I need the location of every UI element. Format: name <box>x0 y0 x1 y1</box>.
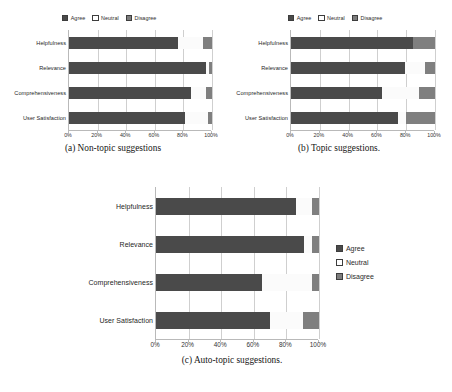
y-axis-label: User Satisfaction <box>245 115 291 121</box>
y-axis-label: Comprehensiveness <box>236 90 291 96</box>
legend-swatch-agree-icon <box>336 245 343 252</box>
bar-segment-neutral <box>382 87 419 99</box>
legend-swatch-agree-icon <box>288 15 294 21</box>
stacked-bar <box>156 198 319 215</box>
legend-swatch-neutral-icon <box>318 15 324 21</box>
legend-label-neutral: Neutral <box>101 15 119 21</box>
bar-segment-disagree <box>419 87 435 99</box>
stacked-bar <box>69 112 212 124</box>
legend-swatch-agree-icon <box>62 15 68 21</box>
bar-segment-neutral <box>304 236 312 253</box>
legend-swatch-disagree-icon <box>126 15 132 21</box>
bar-segment-agree <box>69 87 191 99</box>
legend-label-disagree: Disagree <box>134 15 156 21</box>
x-tick-label: 0% <box>150 341 159 348</box>
x-tick-label: 20% <box>313 132 324 138</box>
bar-segment-neutral <box>185 112 208 124</box>
y-axis-label: Helpfulness <box>116 203 156 210</box>
x-tick-label: 60% <box>148 132 159 138</box>
caption-a: (a) Non-topic suggestions <box>0 143 226 153</box>
stacked-bar <box>291 62 435 74</box>
legend-item-disagree: Disagree <box>352 15 383 21</box>
plot-area-b: HelpfulnessRelevanceComprehensivenessUse… <box>290 30 435 130</box>
stacked-bar <box>69 37 212 49</box>
x-tick-label: 20% <box>91 132 102 138</box>
bar-segment-agree <box>156 198 296 215</box>
bar-segment-neutral <box>398 112 407 124</box>
bar-segment-disagree <box>203 37 212 49</box>
bar-row: Comprehensiveness <box>291 80 435 105</box>
legend-c: Agree Neutral Disagree <box>336 245 374 280</box>
x-tick-label: 40% <box>342 132 353 138</box>
bar-segment-agree <box>291 112 398 124</box>
y-axis-label: Relevance <box>120 241 156 248</box>
bar-segment-neutral <box>262 274 313 291</box>
legend-label-neutral: Neutral <box>346 259 369 266</box>
figure-c-auto-topic: Agree Neutral Disagree HelpfulnessReleva… <box>82 167 382 392</box>
x-tick-label: 80% <box>177 132 188 138</box>
x-axis-b: 0%20%40%60%80%100% <box>290 130 434 131</box>
legend-b: Agree Neutral Disagree <box>288 15 382 21</box>
x-tick-label: 100% <box>310 341 326 348</box>
gridline <box>212 30 213 130</box>
x-tick-label: 20% <box>181 341 194 348</box>
caption-c: (c) Auto-topic suggestions. <box>82 355 382 365</box>
x-tick-label: 60% <box>371 132 382 138</box>
bar-row: Relevance <box>69 55 212 80</box>
bar-segment-disagree <box>209 62 212 74</box>
x-axis-a: 0%20%40%60%80%100% <box>68 130 211 131</box>
x-tick-label: 40% <box>214 341 227 348</box>
legend-label-agree: Agree <box>297 15 312 21</box>
y-axis-label: User Satisfaction <box>23 115 69 121</box>
bar-segment-agree <box>156 312 270 329</box>
stacked-bar <box>69 87 212 99</box>
legend-item-agree: Agree <box>336 245 374 252</box>
stacked-bar <box>156 312 319 329</box>
bar-row: Relevance <box>156 225 319 263</box>
x-tick-label: 60% <box>246 341 259 348</box>
bar-segment-disagree <box>312 274 319 291</box>
x-tick-label: 0% <box>286 132 294 138</box>
bar-segment-disagree <box>206 87 212 99</box>
bar-segment-neutral <box>296 198 312 215</box>
plot-area-c: HelpfulnessRelevanceComprehensivenessUse… <box>155 187 319 339</box>
y-axis-label: Comprehensiveness <box>89 279 157 286</box>
bar-row: Helpfulness <box>69 30 212 55</box>
x-axis-c: 0%20%40%60%80%100% <box>155 339 318 340</box>
bar-segment-neutral <box>191 87 207 99</box>
bar-row: User Satisfaction <box>156 301 319 339</box>
stacked-bar <box>291 112 435 124</box>
stacked-bar <box>69 62 212 74</box>
y-axis-label: User Satisfaction <box>99 317 156 324</box>
legend-item-agree: Agree <box>62 15 85 21</box>
y-axis-label: Helpfulness <box>258 40 291 46</box>
bar-segment-neutral <box>405 62 425 74</box>
bar-segment-disagree <box>312 236 319 253</box>
bar-segment-agree <box>291 37 413 49</box>
x-tick-label: 100% <box>427 132 441 138</box>
bar-segment-disagree <box>208 112 212 124</box>
x-tick-label: 0% <box>64 132 72 138</box>
legend-a: Agree Neutral Disagree <box>62 15 156 21</box>
legend-label-agree: Agree <box>346 245 365 252</box>
x-tick-label: 80% <box>279 341 292 348</box>
legend-item-agree: Agree <box>288 15 311 21</box>
legend-item-neutral: Neutral <box>318 15 344 21</box>
bar-row: Helpfulness <box>156 187 319 225</box>
bar-row: Comprehensiveness <box>156 263 319 301</box>
bar-row: Comprehensiveness <box>69 80 212 105</box>
bar-segment-agree <box>69 62 206 74</box>
bar-row: User Satisfaction <box>291 105 435 130</box>
x-tick-label: 40% <box>120 132 131 138</box>
legend-item-neutral: Neutral <box>336 259 374 266</box>
figure-a-non-topic: Agree Neutral Disagree HelpfulnessReleva… <box>0 0 226 162</box>
bar-segment-agree <box>156 274 262 291</box>
legend-swatch-disagree-icon <box>336 273 343 280</box>
bar-row: User Satisfaction <box>69 105 212 130</box>
bar-segment-neutral <box>178 37 204 49</box>
bar-segment-agree <box>291 62 405 74</box>
bar-segment-disagree <box>425 62 435 74</box>
bar-segment-disagree <box>312 198 319 215</box>
legend-label-neutral: Neutral <box>327 15 345 21</box>
gridline <box>435 30 436 130</box>
